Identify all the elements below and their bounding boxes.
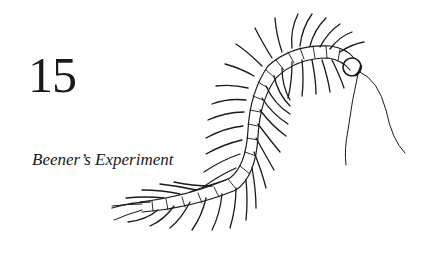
centipede-illustration <box>0 0 427 257</box>
